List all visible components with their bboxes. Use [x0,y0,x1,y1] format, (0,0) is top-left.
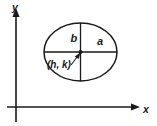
semi-minor-axis-label: b [71,32,78,44]
x-axis [7,103,140,110]
diagram-canvas: b a (h, k) y x [0,0,157,126]
ellipse-center-label: (h, k) [47,59,72,70]
y-axis-label: y [11,1,19,13]
x-axis-label: x [142,103,150,115]
ellipse-diagram: b a (h, k) y x [0,0,157,126]
y-axis [12,8,19,122]
semi-major-axis-label: a [97,35,103,47]
x-axis-arrowhead [131,103,140,110]
ellipse-center-point [78,50,82,54]
